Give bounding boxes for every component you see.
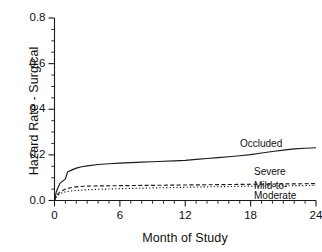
y-tick-label-0.8: 0.8	[30, 11, 46, 23]
x-tick-label-6: 6	[117, 209, 123, 221]
series-label-occluded: Occluded	[240, 139, 282, 150]
series-label-severe: Severe	[254, 167, 286, 178]
x-tick-label-0: 0	[51, 209, 57, 221]
y-tick-label-0.4: 0.4	[30, 102, 46, 114]
series-label-mild-to-moderate-line2: Moderate	[254, 191, 296, 202]
x-axis-title: Month of Study	[54, 231, 316, 245]
y-tick-label-0.0: 0.0	[30, 194, 46, 206]
y-axis-ticks	[49, 18, 55, 201]
y-tick-label-0.2: 0.2	[30, 148, 46, 160]
x-tick-label-12: 12	[179, 209, 192, 221]
x-tick-label-18: 18	[244, 209, 257, 221]
y-tick-label-0.6: 0.6	[30, 57, 46, 69]
x-tick-label-24: 24	[310, 209, 322, 221]
